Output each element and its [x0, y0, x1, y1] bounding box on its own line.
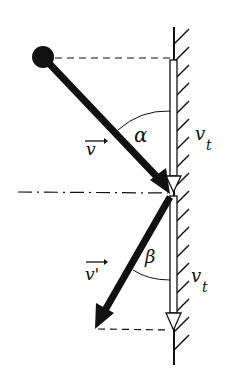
ball-wall-reflection-diagram: α β v v' v t v t — [0, 0, 234, 373]
vt-top-subscript: t — [206, 137, 212, 153]
tangential-arrow-top — [166, 60, 181, 192]
v-prime-label-group: v' — [85, 259, 108, 284]
beta-label: β — [144, 246, 155, 267]
v-prime-label: v' — [85, 264, 99, 284]
vt-bottom-subscript: t — [202, 279, 208, 295]
alpha-label: α — [134, 123, 148, 147]
incident-velocity-arrow — [43, 57, 170, 194]
vt-bottom-label: v — [191, 265, 201, 286]
bottom-dashed-projection — [98, 329, 170, 330]
v-label-group: v — [85, 138, 108, 159]
vt-bottom-label-group: v t — [191, 265, 208, 295]
v-label: v — [86, 139, 96, 159]
vt-top-label: v — [195, 123, 205, 144]
beta-arc — [133, 270, 170, 280]
normal-dashdot-line — [18, 192, 168, 193]
vt-top-label-group: v t — [195, 123, 212, 153]
ball — [32, 46, 54, 68]
